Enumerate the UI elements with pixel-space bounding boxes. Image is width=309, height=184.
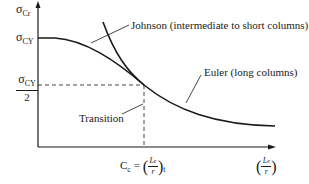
le-over-r-fraction: Ler — [148, 157, 158, 176]
transition-leader-line — [122, 104, 143, 114]
y-axis-arrow-icon — [36, 1, 41, 8]
sigma-cy-label: σCY — [16, 32, 34, 47]
sigma-cy-half-label: σCY 2 — [16, 74, 38, 103]
fraction-numerator: Le — [149, 157, 156, 165]
fraction-denominator: 2 — [24, 92, 30, 103]
c-subscript: c — [127, 165, 131, 174]
fraction-denominator: r — [265, 168, 268, 176]
x-axis-arrow-icon — [268, 145, 276, 150]
close-paren: ) — [271, 158, 276, 175]
e-subscript: e — [267, 158, 270, 164]
equals-sign: = — [134, 159, 140, 171]
cr-subscript: Cr — [22, 9, 30, 18]
johnson-label: Johnson (intermediate to short columns) — [131, 20, 308, 31]
fraction-denominator: r — [151, 168, 154, 176]
e-subscript: e — [154, 158, 157, 164]
fraction-numerator: Le — [263, 157, 270, 165]
le-over-r-fraction: Ler — [261, 157, 271, 176]
x-axis-title: (Ler) — [256, 157, 277, 176]
euler-leader-line — [186, 75, 201, 103]
fraction-numerator: σCY — [18, 74, 36, 89]
t-subscript: t — [163, 165, 165, 174]
cy-subscript: CY — [25, 79, 36, 88]
cy-subscript: CY — [22, 37, 33, 46]
cc-label: Cc = (Ler)t — [120, 157, 166, 176]
transition-label: Transition — [79, 113, 124, 124]
y-axis-title: σCr — [16, 4, 30, 19]
euler-label: Euler (long columns) — [204, 67, 297, 78]
johnson-curve — [38, 38, 144, 85]
